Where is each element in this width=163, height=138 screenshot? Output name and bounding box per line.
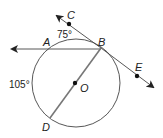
arc-ab-measure: 75° [57, 29, 72, 40]
point-e [135, 74, 139, 78]
label-b: B [98, 36, 105, 48]
tangent-line-be [101, 48, 153, 87]
label-c: C [67, 9, 75, 21]
label-e: E [135, 61, 143, 73]
point-o [73, 81, 77, 85]
point-c [67, 22, 71, 26]
geometry-diagram: C A B E O D 75° 105° [0, 0, 163, 138]
label-o: O [80, 82, 89, 94]
label-d: D [42, 121, 50, 133]
label-a: A [42, 36, 50, 48]
arc-ad-measure: 105° [9, 79, 30, 90]
